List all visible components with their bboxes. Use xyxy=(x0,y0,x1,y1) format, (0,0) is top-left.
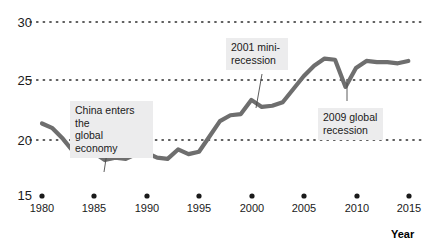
chart-container: 30 25 20 15 1980 1985 1990 1995 2000 200… xyxy=(0,0,429,250)
tick-dot-2005 xyxy=(301,193,306,198)
annotation-global-recession-2009: 2009 global recession xyxy=(318,108,383,140)
tick-dot-1985 xyxy=(91,193,96,198)
annotation-china-entry: China enters the global economy xyxy=(70,101,153,158)
annotation-mini-recession-2001: 2001 mini- recession xyxy=(226,38,288,70)
tick-dot-2015 xyxy=(406,193,411,198)
x-axis-tick-dots xyxy=(39,193,411,198)
tick-dot-1995 xyxy=(196,193,201,198)
tick-dot-2000 xyxy=(249,193,254,198)
tick-dot-1980 xyxy=(39,193,44,198)
tick-dot-2010 xyxy=(354,193,359,198)
tick-dot-1990 xyxy=(144,193,149,198)
